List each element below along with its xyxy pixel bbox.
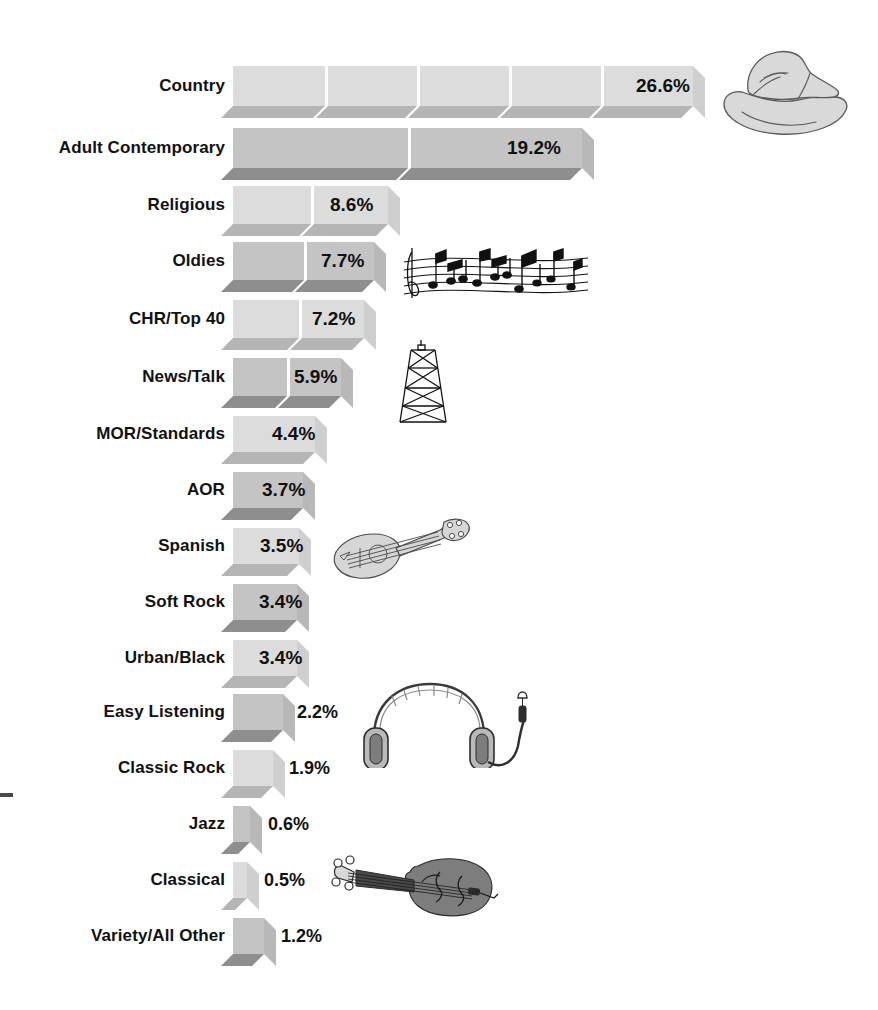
value-label: 19.2% (507, 136, 561, 160)
segment-divider (417, 66, 420, 106)
category-label: Adult Contemporary (0, 137, 225, 159)
radio-tower-illustration (392, 336, 454, 426)
mandolin-illustration (326, 512, 472, 584)
category-label: AOR (0, 479, 225, 501)
category-label: Jazz (0, 813, 225, 835)
bar-face (233, 750, 273, 786)
headphones-illustration (352, 676, 538, 768)
bar-bottom-face (221, 842, 250, 854)
bar-right-face (273, 750, 285, 798)
bar (233, 66, 705, 118)
bar-bottom-face (221, 898, 247, 910)
value-label: 1.2% (281, 924, 322, 948)
category-label: Religious (0, 194, 225, 216)
segment-divider (287, 358, 290, 396)
bar-bottom-face (221, 786, 273, 798)
value-label: 5.9% (294, 365, 337, 389)
bar-face (233, 918, 264, 954)
category-label: Easy Listening (0, 701, 225, 723)
bar-right-face (341, 358, 353, 408)
bar-face (233, 694, 283, 730)
bar (233, 918, 276, 966)
bar-right-face (250, 806, 262, 854)
bar (233, 806, 262, 854)
bar-face (233, 806, 250, 842)
bar-face (233, 66, 693, 106)
bar-right-face (388, 186, 400, 236)
value-label: 0.5% (264, 868, 305, 892)
bar-right-face (582, 128, 594, 180)
segment-divider (299, 300, 302, 338)
category-label: News/Talk (0, 366, 225, 388)
bar (233, 750, 285, 798)
value-label: 2.2% (297, 700, 338, 724)
bar-bottom-face (221, 676, 297, 688)
music-staff-illustration (398, 236, 593, 314)
value-label: 3.4% (259, 590, 302, 614)
bar (233, 862, 259, 910)
value-label: 3.4% (259, 646, 302, 670)
value-label: 3.5% (260, 534, 303, 558)
bar (233, 694, 295, 742)
category-label: Variety/All Other (0, 925, 225, 947)
violin-illustration (322, 846, 518, 922)
cowboy-hat-illustration (712, 42, 852, 142)
segment-divider (325, 66, 328, 106)
chart-row: Variety/All Other1.2% (0, 918, 878, 972)
category-label: Oldies (0, 250, 225, 272)
category-label: CHR/Top 40 (0, 308, 225, 330)
value-label: 4.4% (272, 422, 315, 446)
category-label: Spanish (0, 535, 225, 557)
value-label: 7.7% (321, 249, 364, 273)
bar-bottom-face (221, 508, 303, 520)
segment-divider (311, 186, 314, 224)
value-label: 8.6% (330, 193, 373, 217)
radio-format-share-bar-chart: Country26.6%Adult Contemporary19.2%Relig… (0, 0, 878, 1010)
bar-right-face (693, 66, 705, 118)
category-label: Country (0, 75, 225, 97)
value-label: 1.9% (289, 756, 330, 780)
chart-row: Religious8.6% (0, 186, 878, 242)
category-label: Soft Rock (0, 591, 225, 613)
bar-bottom-face (221, 620, 297, 632)
bar-bottom-face (221, 730, 283, 742)
bar-face (233, 862, 247, 898)
bar-right-face (315, 416, 327, 464)
left-axis-tick (0, 793, 13, 797)
category-label: Classic Rock (0, 757, 225, 779)
bar-bottom-face (221, 564, 299, 576)
segment-divider (601, 66, 604, 106)
bar-right-face (264, 918, 276, 966)
segment-divider (408, 128, 411, 168)
bar-bottom-face (221, 954, 264, 966)
bar-right-face (283, 694, 295, 742)
chart-row: Soft Rock3.4% (0, 584, 878, 638)
category-label: Classical (0, 869, 225, 891)
bar-bottom-face (221, 106, 693, 118)
segment-divider (304, 242, 307, 280)
value-label: 7.2% (312, 307, 355, 331)
category-label: Urban/Black (0, 647, 225, 669)
category-label: MOR/Standards (0, 423, 225, 445)
bar-bottom-face (221, 452, 315, 464)
segment-divider (509, 66, 512, 106)
value-label: 0.6% (268, 812, 309, 836)
bar-right-face (374, 242, 386, 292)
value-label: 26.6% (636, 74, 690, 98)
bar-right-face (364, 300, 376, 350)
bar (233, 186, 400, 236)
value-label: 3.7% (262, 478, 305, 502)
bar-right-face (247, 862, 259, 910)
